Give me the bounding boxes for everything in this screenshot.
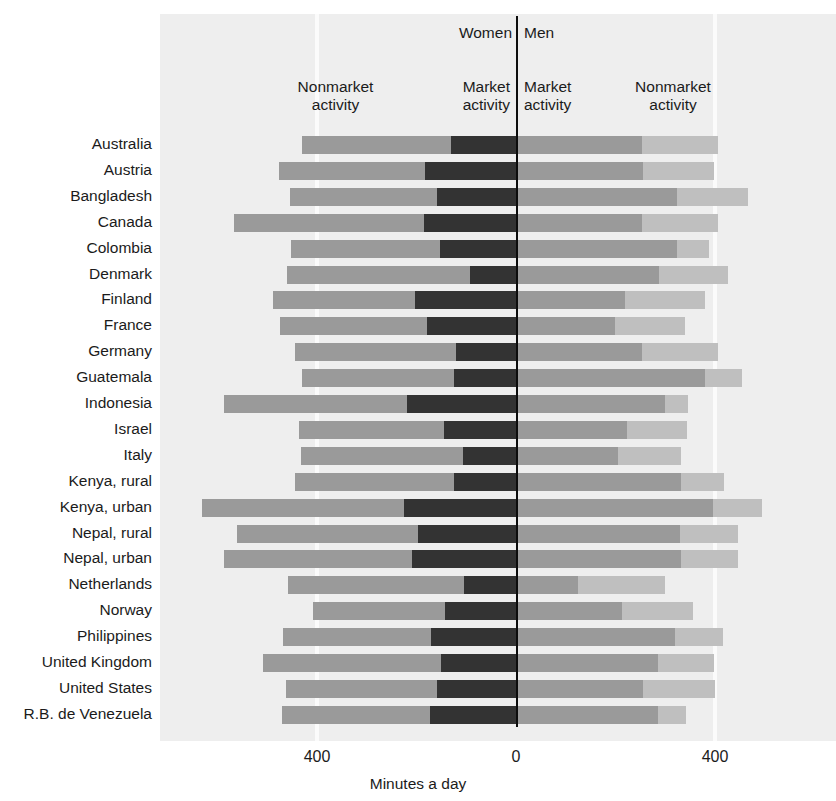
bar-women-market bbox=[437, 188, 516, 206]
bar-men-nonmarket bbox=[677, 240, 709, 258]
bar-row: Netherlands bbox=[0, 573, 836, 598]
country-label: Colombia bbox=[0, 238, 152, 257]
bar-men-market bbox=[518, 499, 713, 517]
bar-women-nonmarket bbox=[234, 214, 424, 232]
bar-men-nonmarket bbox=[627, 421, 686, 439]
bar-row: Indonesia bbox=[0, 392, 836, 417]
country-label: United Kingdom bbox=[0, 652, 152, 671]
country-label: Italy bbox=[0, 445, 152, 464]
x-axis-title: Minutes a day bbox=[0, 775, 836, 793]
x-tick-center: 0 bbox=[486, 748, 546, 766]
bar-women-nonmarket bbox=[279, 162, 426, 180]
country-label: Kenya, urban bbox=[0, 497, 152, 516]
bar-row: Denmark bbox=[0, 263, 836, 288]
bar-men-market bbox=[518, 576, 578, 594]
bar-men-market bbox=[518, 317, 615, 335]
bar-row: France bbox=[0, 314, 836, 339]
bar-women-market bbox=[418, 525, 516, 543]
bar-men-market bbox=[518, 680, 643, 698]
bar-women-nonmarket bbox=[280, 317, 427, 335]
bar-men-market bbox=[518, 706, 658, 724]
bar-men-market bbox=[518, 550, 681, 568]
country-label: Indonesia bbox=[0, 393, 152, 412]
bar-men-market bbox=[518, 525, 680, 543]
bar-women-market bbox=[470, 266, 516, 284]
bar-row: Nepal, urban bbox=[0, 547, 836, 572]
chart-figure: Women Men Nonmarket activity Market acti… bbox=[0, 0, 836, 801]
country-label: Nepal, urban bbox=[0, 548, 152, 567]
bar-men-market bbox=[518, 654, 658, 672]
bar-men-nonmarket bbox=[642, 214, 718, 232]
bar-men-nonmarket bbox=[680, 525, 739, 543]
bar-women-nonmarket bbox=[291, 240, 440, 258]
bar-women-nonmarket bbox=[313, 602, 445, 620]
bar-men-nonmarket bbox=[618, 447, 681, 465]
bar-women-market bbox=[412, 550, 516, 568]
country-label: France bbox=[0, 315, 152, 334]
bar-women-nonmarket bbox=[287, 266, 470, 284]
bar-men-nonmarket bbox=[677, 188, 749, 206]
bar-women-market bbox=[464, 576, 516, 594]
bar-men-market bbox=[518, 266, 659, 284]
country-label: Kenya, rural bbox=[0, 471, 152, 490]
bar-women-market bbox=[431, 628, 516, 646]
bar-row: Australia bbox=[0, 133, 836, 158]
x-tick-right: 400 bbox=[685, 748, 745, 766]
country-label: Bangladesh bbox=[0, 186, 152, 205]
bar-women-market bbox=[445, 602, 516, 620]
bar-women-nonmarket bbox=[301, 447, 464, 465]
country-label: United States bbox=[0, 678, 152, 697]
bar-women-nonmarket bbox=[263, 654, 441, 672]
bar-row: Colombia bbox=[0, 237, 836, 262]
bar-men-market bbox=[518, 343, 642, 361]
bar-women-nonmarket bbox=[290, 188, 438, 206]
bar-men-market bbox=[518, 421, 627, 439]
bar-women-nonmarket bbox=[295, 343, 456, 361]
country-label: Netherlands bbox=[0, 574, 152, 593]
bar-men-market bbox=[518, 136, 642, 154]
bar-row: Bangladesh bbox=[0, 185, 836, 210]
bar-men-market bbox=[518, 162, 643, 180]
bar-women-market bbox=[424, 214, 516, 232]
bar-men-nonmarket bbox=[675, 628, 724, 646]
bar-women-nonmarket bbox=[224, 550, 412, 568]
country-label: Germany bbox=[0, 341, 152, 360]
bar-men-nonmarket bbox=[658, 654, 713, 672]
bar-row: Kenya, rural bbox=[0, 470, 836, 495]
bar-rows: AustraliaAustriaBangladeshCanadaColombia… bbox=[0, 0, 836, 801]
bar-men-market bbox=[518, 628, 675, 646]
bar-men-market bbox=[518, 214, 642, 232]
bar-men-nonmarket bbox=[681, 550, 738, 568]
bar-row: Nepal, rural bbox=[0, 522, 836, 547]
bar-men-nonmarket bbox=[625, 291, 705, 309]
bar-men-nonmarket bbox=[578, 576, 666, 594]
bar-women-market bbox=[430, 706, 516, 724]
bar-women-market bbox=[454, 473, 516, 491]
bar-women-nonmarket bbox=[202, 499, 404, 517]
x-tick-left: 400 bbox=[287, 748, 347, 766]
bar-row: Philippines bbox=[0, 625, 836, 650]
bar-women-market bbox=[456, 343, 516, 361]
bar-women-market bbox=[407, 395, 516, 413]
bar-row: Italy bbox=[0, 444, 836, 469]
bar-men-nonmarket bbox=[705, 369, 742, 387]
bar-women-nonmarket bbox=[302, 136, 451, 154]
bar-men-nonmarket bbox=[665, 395, 687, 413]
bar-men-nonmarket bbox=[658, 706, 686, 724]
bar-men-nonmarket bbox=[642, 136, 718, 154]
bar-row: Germany bbox=[0, 340, 836, 365]
bar-women-nonmarket bbox=[299, 421, 444, 439]
bar-women-market bbox=[463, 447, 516, 465]
bar-women-nonmarket bbox=[295, 473, 455, 491]
country-label: Nepal, rural bbox=[0, 523, 152, 542]
bar-women-nonmarket bbox=[302, 369, 455, 387]
bar-row: Norway bbox=[0, 599, 836, 624]
bar-women-market bbox=[441, 654, 516, 672]
bar-row: R.B. de Venezuela bbox=[0, 703, 836, 728]
bar-men-market bbox=[518, 447, 618, 465]
bar-women-nonmarket bbox=[288, 576, 464, 594]
bar-row: Guatemala bbox=[0, 366, 836, 391]
country-label: R.B. de Venezuela bbox=[0, 704, 152, 723]
bar-men-market bbox=[518, 473, 681, 491]
bar-women-nonmarket bbox=[224, 395, 407, 413]
